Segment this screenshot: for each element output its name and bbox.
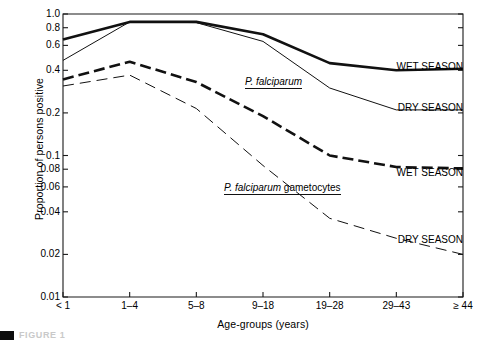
annotation-wet-season-gametocytes: WET SEASON <box>286 167 463 178</box>
caption-text: FIGURE 1 <box>19 330 65 340</box>
group-label-falciparum-italic: P. falciparum <box>245 76 302 87</box>
series-lines <box>63 22 463 255</box>
axis-frame <box>63 14 463 297</box>
annotation-dry-season-gametocytes: DRY SEASON <box>286 234 463 245</box>
caption-marker-icon <box>0 331 14 340</box>
figure-caption: FIGURE 1 <box>0 329 200 341</box>
axis-ticks <box>63 14 463 297</box>
group-label-gametocytes-plain: gametocytes <box>281 182 340 193</box>
group-label-falciparum-gametocytes: P. falciparum gametocytes <box>224 182 341 195</box>
annotation-wet-season-falciparum: WET SEASON <box>286 61 463 72</box>
figure-chart: Proportion of persons positive 1.00.80.6… <box>0 0 479 341</box>
group-label-falciparum: P. falciparum <box>245 76 302 89</box>
annotation-dry-season-falciparum: DRY SEASON <box>286 102 463 113</box>
group-label-gametocytes-italic: P. falciparum <box>224 182 281 193</box>
